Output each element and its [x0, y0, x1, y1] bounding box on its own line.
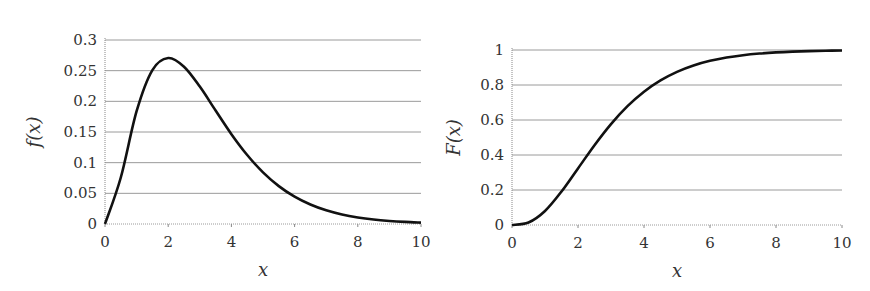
y-tick-label: 0.2	[480, 181, 504, 199]
y-tick-label: 0.1	[73, 154, 97, 172]
y-tick-label: 0.8	[480, 76, 504, 94]
y-tick-label: 1	[494, 41, 504, 59]
cdf-plot: 00.20.40.60.810246810xF(x)	[443, 41, 852, 281]
y-axis-label: f(x)	[23, 117, 44, 150]
x-tick-label: 4	[227, 233, 237, 251]
x-tick-label: 6	[705, 234, 715, 252]
x-tick-label: 10	[832, 234, 851, 252]
x-tick-label: 6	[290, 233, 300, 251]
x-tick-label: 0	[507, 234, 517, 252]
y-tick-label: 0.2	[73, 92, 97, 110]
y-tick-label: 0.6	[480, 111, 504, 129]
chart-canvas: 00.050.10.150.20.250.30246810xf(x) 00.20…	[0, 0, 870, 291]
x-tick-label: 2	[573, 234, 583, 252]
y-tick-label: 0	[494, 216, 504, 234]
x-axis-label: x	[672, 260, 682, 281]
pdf-plot: 00.050.10.150.20.250.30246810xf(x)	[23, 31, 431, 280]
x-axis-label: x	[258, 259, 268, 280]
y-tick-label: 0.4	[480, 146, 504, 164]
x-tick-label: 8	[771, 234, 781, 252]
x-tick-label: 10	[411, 233, 430, 251]
y-tick-label: 0.05	[64, 184, 97, 202]
pdf-curve	[105, 58, 421, 224]
y-tick-label: 0	[87, 215, 97, 233]
y-tick-label: 0.15	[64, 123, 97, 141]
cdf-curve	[512, 50, 842, 225]
y-tick-label: 0.3	[73, 31, 97, 49]
x-tick-label: 2	[163, 233, 173, 251]
x-tick-label: 4	[639, 234, 649, 252]
y-tick-label: 0.25	[64, 62, 97, 80]
x-tick-label: 8	[353, 233, 363, 251]
y-axis-label: F(x)	[443, 119, 464, 157]
x-tick-label: 0	[100, 233, 110, 251]
